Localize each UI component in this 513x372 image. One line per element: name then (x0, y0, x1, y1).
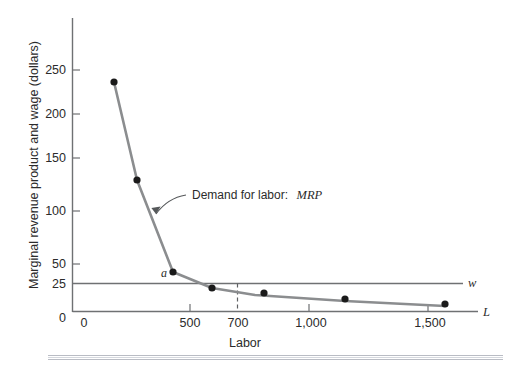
x-axis-title: Labor (229, 336, 261, 350)
x-tick-label-1500: 1,500 (414, 316, 445, 330)
data-point (110, 78, 117, 85)
data-point (169, 268, 176, 275)
x-axis-ticks (190, 304, 428, 312)
curve-annotation-text: Demand for labor: (192, 188, 288, 202)
data-point (441, 300, 448, 307)
data-point (208, 284, 215, 291)
data-point (133, 176, 140, 183)
figure-container: 250 200 150 100 50 25 0 0 500 700 1,000 … (0, 0, 513, 372)
labor-demand-chart: 250 200 150 100 50 25 0 0 500 700 1,000 … (0, 0, 513, 372)
x-axis-variable-label: L (482, 305, 490, 319)
footer-divider-middle (48, 357, 503, 358)
curve-annotation-emphasis: MRP (296, 188, 323, 202)
y-axis-ticks (73, 70, 81, 264)
data-point (260, 289, 267, 296)
annotation-leader-line (156, 195, 186, 214)
footer-divider-bottom (48, 359, 503, 360)
x-tick-label-1000: 1,000 (295, 316, 326, 330)
footer-divider-top (48, 355, 503, 356)
y-tick-label-150: 150 (45, 151, 66, 165)
y-tick-label-25: 25 (52, 277, 66, 291)
y-tick-label-250: 250 (45, 63, 66, 77)
curve-annotation: Demand for labor: MRP (192, 185, 323, 202)
point-a-label: a (161, 266, 167, 280)
x-tick-label-0: 0 (81, 316, 88, 330)
x-tick-label-500: 500 (180, 316, 201, 330)
y-tick-label-0: 0 (59, 311, 66, 325)
x-tick-label-700: 700 (228, 316, 249, 330)
wage-label: w (468, 276, 477, 290)
y-tick-label-100: 100 (45, 204, 66, 218)
y-tick-label-50: 50 (52, 257, 66, 271)
data-point (341, 295, 348, 302)
y-axis-title: Marginal revenue product and wage (dolla… (27, 41, 41, 289)
y-tick-label-200: 200 (45, 107, 66, 121)
